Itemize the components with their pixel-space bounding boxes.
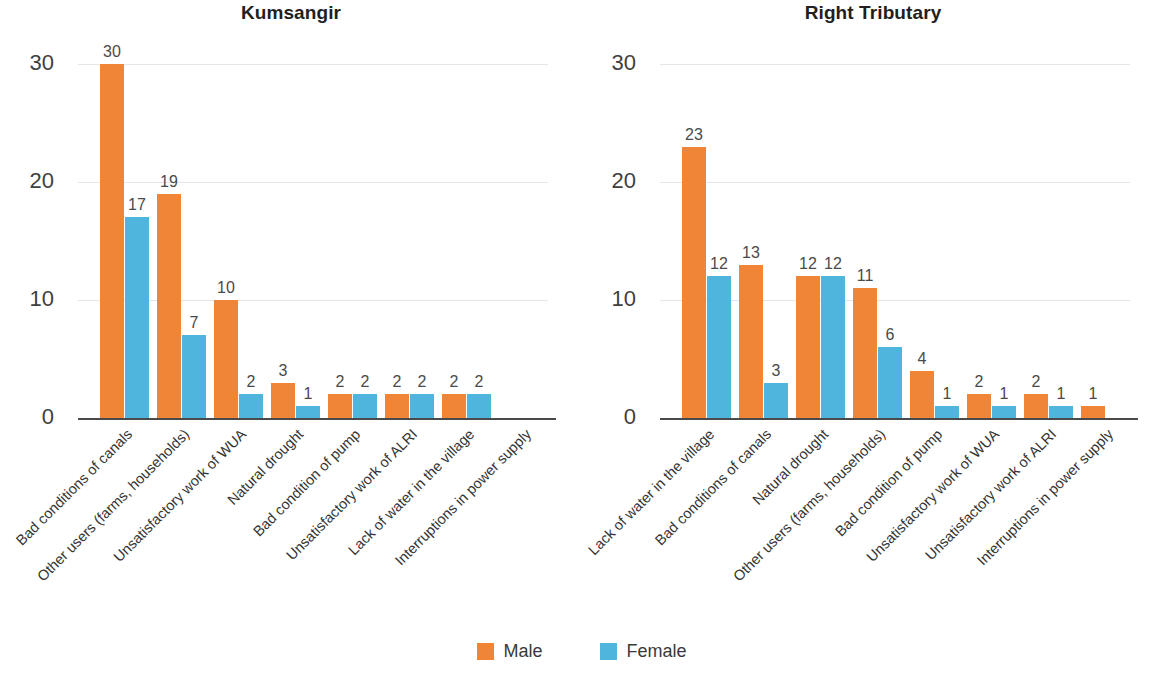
- bar-male: [328, 394, 352, 418]
- bar-male: [442, 394, 466, 418]
- bar-group: 133: [739, 57, 788, 418]
- bar-group: 22: [442, 57, 491, 418]
- plot-area: 0102030 231213312121164121211: [660, 55, 1130, 420]
- bar-female: [992, 406, 1016, 418]
- bar-value-label: 6: [870, 326, 910, 344]
- bar-group: 3017: [100, 57, 149, 418]
- x-axis-label: Bad conditions of canals: [652, 426, 774, 548]
- bar-value-label: 1: [1073, 385, 1113, 403]
- bar-male: [157, 194, 181, 418]
- bar-female: [467, 394, 491, 418]
- y-axis-tick-label: 30: [0, 50, 54, 76]
- bar-male: [796, 276, 820, 418]
- bar-group: 1212: [796, 57, 845, 418]
- bar-group: 116: [853, 57, 902, 418]
- bar-group: [499, 57, 548, 418]
- bar-male: [682, 147, 706, 418]
- chart-panel-kumsangir: Kumsangir 0102030 301719710231222222 Bad…: [0, 0, 582, 640]
- bar-group: 22: [385, 57, 434, 418]
- bar-group: 21: [1024, 57, 1073, 418]
- bar-group: 31: [271, 57, 320, 418]
- bar-male: [1081, 406, 1105, 418]
- x-axis-labels: Lack of water in the villageBad conditio…: [582, 420, 1164, 635]
- bar-female: [707, 276, 731, 418]
- bar-group-container: 301719710231222222: [78, 57, 548, 418]
- chart-title: Kumsangir: [0, 2, 582, 24]
- x-axis-label: Bad conditions of canals: [13, 426, 135, 548]
- legend-label: Female: [626, 641, 686, 662]
- bar-female: [935, 406, 959, 418]
- legend-label: Male: [503, 641, 542, 662]
- bar-value-label: 13: [731, 244, 771, 262]
- bar-group: 22: [328, 57, 377, 418]
- bar-female: [353, 394, 377, 418]
- chart-legend: MaleFemale: [0, 641, 1164, 662]
- bar-group: 197: [157, 57, 206, 418]
- bar-value-label: 17: [117, 196, 157, 214]
- y-axis-tick-label: 20: [576, 168, 636, 194]
- x-axis-label: Bad condition of pump: [832, 426, 945, 539]
- bar-value-label: 19: [149, 173, 189, 191]
- y-axis-tick-label: 10: [0, 286, 54, 312]
- y-axis-tick-label: 10: [576, 286, 636, 312]
- plot-area: 0102030 301719710231222222: [78, 55, 548, 420]
- bar-value-label: 11: [845, 267, 885, 285]
- legend-item: Male: [477, 641, 542, 662]
- bar-male: [385, 394, 409, 418]
- bar-male: [100, 64, 124, 418]
- bar-value-label: 23: [674, 126, 714, 144]
- bar-group: 2312: [682, 57, 731, 418]
- bar-female: [296, 406, 320, 418]
- bar-value-label: 3: [756, 362, 796, 380]
- bar-value-label: 2: [459, 373, 499, 391]
- bar-female: [764, 383, 788, 418]
- bar-female: [878, 347, 902, 418]
- bar-group-container: 231213312121164121211: [660, 57, 1130, 418]
- bar-male: [739, 265, 763, 418]
- bar-female: [182, 335, 206, 418]
- legend-item: Female: [600, 641, 686, 662]
- chart-figure: Kumsangir 0102030 301719710231222222 Bad…: [0, 0, 1164, 677]
- chart-title: Right Tributary: [582, 2, 1164, 24]
- legend-swatch-icon: [600, 643, 617, 660]
- bar-group: 1: [1081, 57, 1130, 418]
- bar-group: 21: [967, 57, 1016, 418]
- bar-female: [239, 394, 263, 418]
- y-axis-tick-label: 20: [0, 168, 54, 194]
- bar-value-label: 10: [206, 279, 246, 297]
- bar-female: [410, 394, 434, 418]
- x-axis-label: Bad condition of pump: [250, 426, 363, 539]
- bar-value-label: 4: [902, 350, 942, 368]
- y-axis-tick-label: 30: [576, 50, 636, 76]
- bar-male: [214, 300, 238, 418]
- bar-female: [125, 217, 149, 418]
- bar-male: [853, 288, 877, 418]
- x-axis-labels: Bad conditions of canalsOther users (far…: [0, 420, 582, 635]
- bar-value-label: 30: [92, 43, 132, 61]
- legend-swatch-icon: [477, 643, 494, 660]
- bar-female: [1049, 406, 1073, 418]
- bar-female: [821, 276, 845, 418]
- bar-group: 102: [214, 57, 263, 418]
- bar-group: 41: [910, 57, 959, 418]
- bar-value-label: 7: [174, 314, 214, 332]
- chart-panel-right-tributary: Right Tributary 0102030 2312133121211641…: [582, 0, 1164, 640]
- bar-value-label: 3: [263, 362, 303, 380]
